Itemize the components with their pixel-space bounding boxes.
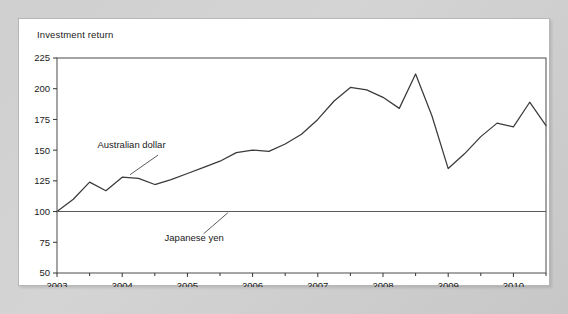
- y-tick-label: 175: [34, 114, 50, 125]
- plot-area: 5075100125150175200225 20032004200520062…: [19, 19, 551, 287]
- annotation-leader-japanese-yen: [204, 213, 228, 234]
- screenshot-root: Investment return 5075100125150175200225…: [0, 0, 568, 314]
- x-axis-ticks: 20032004200520062007200820092010: [46, 273, 546, 287]
- y-tick-label: 150: [34, 145, 50, 156]
- x-tick-label: 2003: [46, 280, 67, 287]
- plot-frame: [57, 58, 546, 273]
- chart-card: Investment return 5075100125150175200225…: [18, 18, 550, 286]
- y-tick-label: 75: [39, 237, 50, 248]
- x-tick-label: 2009: [438, 280, 459, 287]
- line-chart: 5075100125150175200225 20032004200520062…: [19, 19, 551, 287]
- x-tick-label: 2005: [177, 280, 198, 287]
- y-tick-label: 50: [39, 267, 50, 278]
- plot-box: [57, 58, 546, 273]
- x-tick-label: 2006: [242, 280, 263, 287]
- annotation-label-japanese-yen: Japanese yen: [165, 232, 224, 243]
- annotation-leader-australian-dollar: [130, 155, 158, 175]
- y-tick-label: 100: [34, 206, 50, 217]
- x-tick-label: 2008: [372, 280, 393, 287]
- x-tick-label: 2010: [503, 280, 524, 287]
- y-tick-label: 200: [34, 83, 50, 94]
- y-axis-ticks: 5075100125150175200225: [34, 52, 57, 278]
- y-tick-label: 125: [34, 175, 50, 186]
- x-tick-label: 2004: [112, 280, 133, 287]
- annotation-group: Australian dollarJapanese yen: [97, 139, 227, 243]
- y-tick-label: 225: [34, 52, 50, 63]
- x-tick-label: 2007: [307, 280, 328, 287]
- annotation-label-australian-dollar: Australian dollar: [97, 139, 165, 150]
